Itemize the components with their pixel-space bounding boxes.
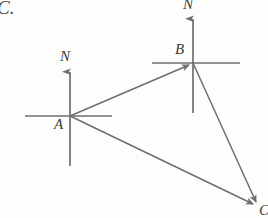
point-label-c: C (259, 203, 268, 218)
corner-tag-label: C. (0, 0, 14, 17)
edge-a-to-b (70, 65, 189, 116)
point-label-b: B (175, 42, 184, 57)
figure-canvas (0, 0, 268, 218)
edge-a-to-c (70, 116, 253, 204)
point-label-a: A (54, 117, 63, 132)
bearings-triangle-figure: C. N N A B C (0, 0, 268, 218)
edge-b-to-c (193, 63, 256, 202)
north-label-b: N (183, 0, 193, 12)
north-label-a: N (60, 49, 70, 64)
